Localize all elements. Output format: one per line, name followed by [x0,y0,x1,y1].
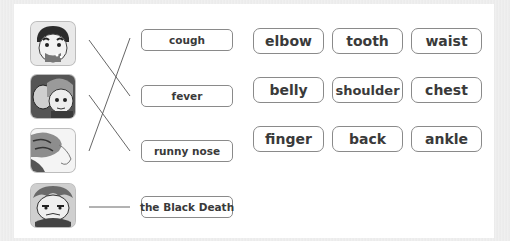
body-part-ankle[interactable]: ankle [411,126,482,152]
cartoon-people-fever-icon [31,75,75,118]
cartoon-sick-face-icon [31,184,75,227]
body-part-waist[interactable]: waist [411,28,482,54]
picture-black-death[interactable] [31,184,75,227]
disease-cough[interactable]: cough [141,29,233,51]
picture-coughing-man[interactable] [31,22,75,65]
body-part-belly[interactable]: belly [253,77,324,103]
body-part-finger[interactable]: finger [253,126,324,152]
cartoon-man-coughing-icon [31,22,75,65]
body-part-chest[interactable]: chest [411,77,482,103]
body-part-back[interactable]: back [332,126,403,152]
cartoon-runny-nose-icon [31,129,75,172]
picture-runny-nose[interactable] [31,129,75,172]
body-part-shoulder[interactable]: shoulder [332,77,403,103]
body-part-tooth[interactable]: tooth [332,28,403,54]
body-part-elbow[interactable]: elbow [253,28,324,54]
disease-fever[interactable]: fever [141,85,233,107]
disease-black-death[interactable]: the Black Death [141,196,233,218]
disease-runny-nose[interactable]: runny nose [141,140,233,162]
picture-fever-people[interactable] [31,75,75,118]
